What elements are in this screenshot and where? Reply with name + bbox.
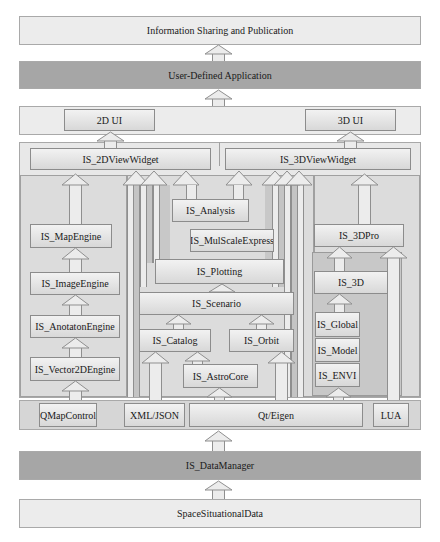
box-orbit: IS_Orbit — [229, 329, 294, 352]
pipe — [140, 185, 147, 287]
box-label: Qt/Eigen — [258, 410, 294, 421]
arrow-up-icon — [326, 388, 351, 397]
box-label: XML/JSON — [130, 410, 179, 421]
arrow-up-icon — [205, 481, 232, 490]
arrow-up-icon — [205, 45, 232, 54]
arrow-shaft — [69, 258, 82, 272]
box-lua: LUA — [373, 403, 409, 427]
box-3d-view-widget: IS_3DViewWidget — [225, 148, 411, 170]
box-qt-eigen: Qt/Eigen — [189, 403, 363, 427]
box-scenario: IS_Scenario — [139, 292, 294, 315]
box-label: IS_3D — [338, 277, 364, 288]
box-label: LUA — [381, 410, 402, 421]
layer-label: User-Defined Application — [168, 70, 271, 81]
arrow-up-icon — [173, 171, 199, 185]
arrow-up-icon — [62, 174, 89, 185]
box-label: IS_ImageEngine — [41, 278, 108, 289]
divider — [219, 142, 220, 166]
box-label: IS_Vector2DEngine — [35, 364, 116, 375]
arrow-up-icon — [205, 90, 232, 99]
arrow-up-icon — [209, 284, 235, 292]
layer-information-sharing: Information Sharing and Publication — [19, 16, 421, 45]
box-plotting: IS_Plotting — [155, 259, 284, 284]
box-label: IS_3DPro — [339, 230, 379, 241]
box-label: 2D UI — [97, 115, 122, 126]
arrow-up-icon — [185, 352, 210, 361]
box-map-engine: IS_MapEngine — [30, 224, 112, 248]
pipe — [297, 185, 304, 397]
box-label: 3D UI — [338, 115, 363, 126]
layer-label: SpaceSituationalData — [177, 508, 263, 519]
arrow-shaft — [387, 257, 400, 400]
box-model: IS_Model — [315, 338, 360, 362]
arrow-up-icon — [142, 352, 169, 363]
pipe-gap — [160, 185, 170, 263]
arrow-up-icon — [62, 248, 89, 259]
box-label: IS_Plotting — [197, 266, 243, 277]
arrow-up-icon — [205, 431, 232, 441]
box-label: QMapControl — [40, 410, 96, 421]
arrow-up-icon — [327, 294, 352, 304]
box-qmapcontrol: QMapControl — [39, 403, 97, 427]
box-label: IS_MulScaleExpress — [190, 235, 274, 246]
box-catalog: IS_Catalog — [139, 329, 211, 352]
arrow-shaft — [358, 184, 371, 224]
arrow-up-icon — [62, 295, 89, 305]
box-label: IS_Orbit — [244, 335, 279, 346]
layer-data-manager: IS_DataManager — [19, 451, 421, 480]
arrow-up-icon — [351, 174, 378, 185]
arrow-up-icon — [207, 388, 232, 397]
arrow-up-icon — [337, 132, 364, 141]
box-2d-view-widget: IS_2DViewWidget — [30, 148, 211, 170]
pipe — [127, 185, 134, 397]
arrow-up-icon — [62, 381, 89, 391]
box-3dpro: IS_3DPro — [314, 224, 404, 247]
box-3d-ui: 3D UI — [305, 109, 396, 131]
box-label: IS_Scenario — [192, 298, 241, 309]
box-annotation-engine: IS_AnotatonEngine — [30, 315, 120, 338]
arrow-shaft — [334, 257, 345, 271]
box-label: IS_3DViewWidget — [280, 154, 356, 165]
box-vector2d-engine: IS_Vector2DEngine — [30, 357, 120, 381]
box-label: IS_MapEngine — [41, 231, 102, 242]
layer-label: IS_DataManager — [186, 460, 254, 471]
layer-label: Information Sharing and Publication — [147, 25, 293, 36]
arrow-up-icon — [327, 247, 352, 258]
arrow-up-icon — [268, 352, 295, 363]
box-label: IS_Analysis — [186, 205, 235, 216]
arrow-up-icon — [226, 171, 252, 185]
box-label: IS_AstroCore — [193, 371, 249, 382]
box-2d-ui: 2D UI — [64, 109, 155, 131]
box-label: IS_ENVI — [319, 370, 357, 381]
box-label: IS_AnotatonEngine — [35, 321, 114, 332]
box-xml-json: XML/JSON — [124, 403, 185, 427]
box-analysis: IS_Analysis — [172, 199, 249, 222]
box-label: IS_Global — [317, 319, 358, 330]
box-global: IS_Global — [315, 312, 360, 337]
box-3d: IS_3D — [314, 271, 388, 294]
arrow-shaft — [69, 304, 82, 315]
arrow-up-icon — [166, 315, 191, 324]
box-mulscale-express: IS_MulScaleExpress — [190, 229, 274, 252]
box-envi: IS_ENVI — [315, 363, 360, 387]
arrow-shaft — [233, 185, 244, 199]
box-label: IS_Model — [318, 345, 358, 356]
layer-user-defined-application: User-Defined Application — [19, 61, 421, 89]
arrow-up-icon — [141, 171, 167, 185]
arrow-shaft — [69, 184, 82, 224]
layer-space-situational-data: SpaceSituationalData — [19, 499, 421, 528]
box-astrocore: IS_AstroCore — [183, 364, 258, 388]
arrow-up-icon — [286, 171, 312, 185]
arrow-up-icon — [249, 315, 274, 324]
arrow-up-icon — [380, 247, 407, 258]
box-label: IS_Catalog — [153, 335, 198, 346]
arrow-shaft — [186, 185, 197, 199]
pipe — [153, 185, 160, 263]
box-label: IS_2DViewWidget — [82, 154, 158, 165]
arrow-up-icon — [97, 132, 124, 141]
arrow-up-icon — [62, 338, 89, 348]
box-image-engine: IS_ImageEngine — [30, 272, 120, 295]
